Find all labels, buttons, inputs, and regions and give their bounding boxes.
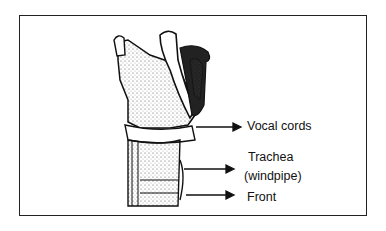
label-windpipe: (windpipe) [244,169,302,183]
label-front: Front [247,190,276,204]
arrow-front [186,191,234,199]
arrow-vocal-cords [196,123,241,131]
arrow-trachea [184,165,234,173]
label-vocal-cords: Vocal cords [247,119,312,133]
label-trachea: Trachea [248,150,293,164]
larynx-illustration [0,0,386,231]
